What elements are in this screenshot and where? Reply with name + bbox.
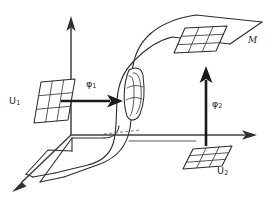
grid-patch-manifold-fold-group xyxy=(124,68,144,120)
label-map-phi1: φ1 xyxy=(86,79,96,90)
map-arrow-phi2-group xyxy=(200,66,213,146)
grid-patch-manifold-upper-outline xyxy=(174,26,227,53)
label-phi2-subscript: 2 xyxy=(218,102,222,110)
label-u1-subscript: 1 xyxy=(16,99,20,107)
label-u2-subscript: 2 xyxy=(224,169,228,177)
dashed-hidden-edge xyxy=(104,130,140,134)
label-chart-domain-u1: U1 xyxy=(9,96,20,107)
manifold-chart-diagram: U1 φ1 φ2 M U2 xyxy=(0,0,276,202)
label-manifold-m: M xyxy=(248,36,257,45)
grid-patch-manifold-upper-group xyxy=(174,26,227,53)
label-chart-domain-u2: U2 xyxy=(217,166,228,177)
diagram-canvas xyxy=(0,0,276,202)
label-map-phi2: φ2 xyxy=(212,99,222,110)
label-phi1-subscript: 1 xyxy=(92,82,96,90)
manifold-lower-back-curve xyxy=(104,126,119,138)
